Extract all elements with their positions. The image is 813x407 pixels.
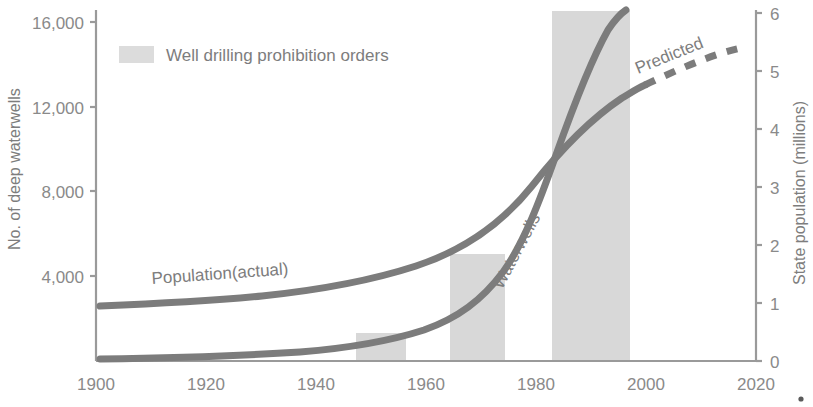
- y2-tick-label-2: 2: [770, 237, 779, 256]
- x-tick-label-2020: 2020: [737, 375, 775, 394]
- x-tick-label-1900: 1900: [77, 375, 115, 394]
- y2-tick-label-1: 1: [770, 295, 779, 314]
- y2-tick-label-0: 0: [770, 353, 779, 372]
- x-tick-label-1940: 1940: [297, 375, 335, 394]
- x-tick-label-2000: 2000: [627, 375, 665, 394]
- y2-tick-label-3: 3: [770, 179, 779, 198]
- y2-tick-label-6: 6: [770, 5, 779, 24]
- y-tick-label-12000: 12,000: [32, 99, 84, 118]
- y2-tick-label-5: 5: [770, 63, 779, 82]
- y2-tick-label-4: 4: [770, 121, 779, 140]
- chart-svg: 16,000 12,000 8,000 4,000 6 5 4 3 2 1 0 …: [0, 0, 813, 407]
- y-axis-right-title: State population (millions): [791, 101, 808, 285]
- y-tick-label-4000: 4,000: [41, 268, 84, 287]
- y-axis-left-title: No. of deep waterwells: [6, 88, 23, 250]
- chart-container: 16,000 12,000 8,000 4,000 6 5 4 3 2 1 0 …: [0, 0, 813, 407]
- annotation-population-actual: Population(actual): [151, 259, 289, 288]
- y-tick-label-8000: 8,000: [41, 183, 84, 202]
- legend-swatch-prohibition-orders: [119, 46, 154, 63]
- legend: Well drilling prohibition orders: [119, 46, 389, 65]
- x-tick-label-1980: 1980: [517, 375, 555, 394]
- page-artifact-dot: [798, 396, 803, 401]
- x-tick-label-1960: 1960: [407, 375, 445, 394]
- legend-label-prohibition-orders: Well drilling prohibition orders: [166, 46, 389, 65]
- y-tick-label-16000: 16,000: [32, 14, 84, 33]
- x-tick-label-1920: 1920: [187, 375, 225, 394]
